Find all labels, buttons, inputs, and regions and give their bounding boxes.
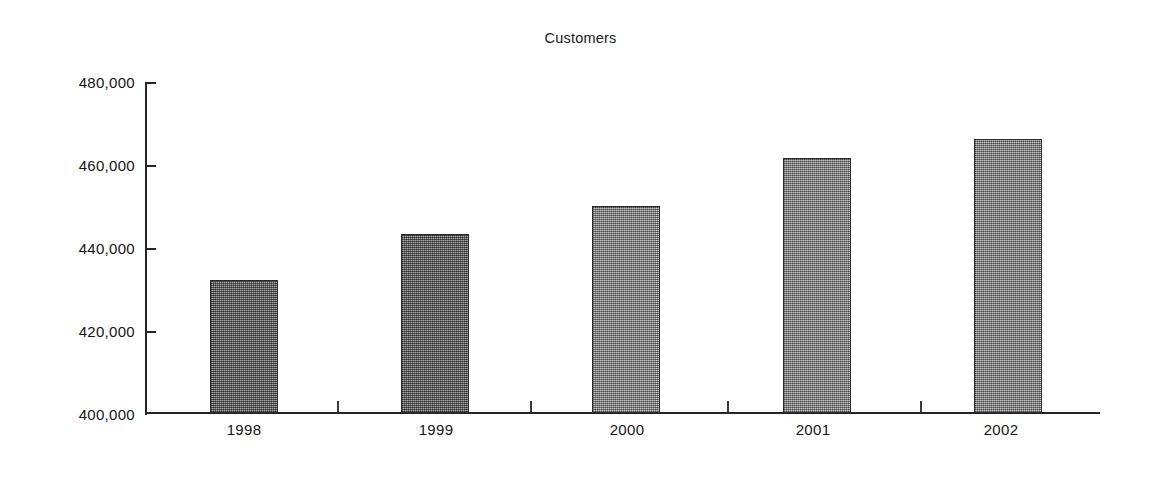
y-axis-label-480000: 480,000 [79,74,135,91]
y-axis-label-460000: 460,000 [79,157,135,174]
bar-2001 [783,158,851,413]
bar-1999 [401,234,469,413]
plot-area: 480,000 460,000 440,000 420,000 400,000 [145,82,1100,414]
y-axis-label-440000: 440,000 [79,240,135,257]
x-axis-separator-tick-2 [530,401,532,412]
y-axis-tick-420000 [147,331,156,333]
bar-2000 [592,206,660,414]
x-axis-separator-tick-1 [337,401,339,412]
y-axis-tick-440000 [147,248,156,250]
y-axis-label-420000: 420,000 [79,323,135,340]
x-axis-label-2001: 2001 [796,421,831,438]
y-axis-label-400000: 400,000 [79,406,135,423]
bar-chart-figure: Customers 480,000 460,000 440,000 420,00… [0,0,1161,482]
y-axis-tick-460000 [147,165,156,167]
x-axis-label-2000: 2000 [610,421,645,438]
chart-title: Customers [0,30,1161,46]
bar-2002 [974,139,1042,413]
x-axis-label-1999: 1999 [419,421,454,438]
x-axis-label-2002: 2002 [984,421,1019,438]
y-axis-tick-480000 [147,82,156,84]
x-axis-separator-tick-4 [920,401,922,412]
x-axis-label-1998: 1998 [227,421,262,438]
x-axis-separator-tick-3 [727,401,729,412]
bar-1998 [210,280,278,413]
